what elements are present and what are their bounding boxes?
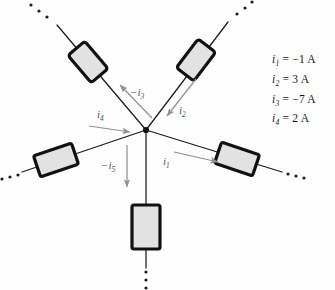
legend-sub-i4: 4 bbox=[275, 119, 279, 128]
figure-canvas: −i3 i2 i4 −i5 i1 i1 = −1 A i2 = 3 A i3 =… bbox=[0, 0, 335, 290]
legend-sub-i1: 1 bbox=[275, 59, 279, 68]
legend-row-i2: i2 = 3 A bbox=[272, 72, 334, 92]
current-label-i3: −i3 bbox=[130, 86, 144, 101]
legend-eq-i1: = bbox=[282, 53, 289, 65]
legend-eq-i2: = bbox=[282, 73, 289, 85]
legend-value-i1: −1 bbox=[292, 53, 305, 65]
legend-eq-i3: = bbox=[282, 93, 289, 105]
current-label-i2-sub: 2 bbox=[182, 110, 186, 119]
current-arrow-i4 bbox=[89, 126, 130, 132]
ellipsis-left bbox=[0, 173, 19, 180]
legend-sub-i2: 2 bbox=[275, 79, 279, 88]
resistor-branch-1 bbox=[215, 142, 260, 176]
legend-unit-i2: A bbox=[301, 73, 310, 85]
legend-row-i3: i3 = −7 A bbox=[272, 92, 334, 112]
current-label-i4: i4 bbox=[97, 108, 104, 123]
legend-unit-i4: A bbox=[301, 112, 310, 124]
current-label-i2: i2 bbox=[179, 104, 186, 119]
legend-row-i1: i1 = −1 A bbox=[272, 52, 334, 72]
current-values-legend: i1 = −1 A i2 = 3 A i3 = −7 A i4 = 2 A bbox=[272, 52, 334, 131]
legend-unit-i3: A bbox=[307, 93, 316, 105]
resistor-branch-4 bbox=[34, 143, 79, 177]
legend-value-i2: 3 bbox=[292, 73, 298, 85]
circuit-diagram bbox=[0, 0, 335, 290]
resistor-branch-3 bbox=[68, 41, 108, 83]
legend-value-i3: −7 bbox=[292, 93, 305, 105]
current-label-i5-sub: 5 bbox=[111, 165, 115, 174]
legend-eq-i4: = bbox=[282, 112, 289, 124]
ellipsis-bottom bbox=[144, 270, 147, 289]
ellipsis-right bbox=[286, 172, 305, 179]
ellipsis-upper-left bbox=[29, 3, 48, 18]
legend-sub-i3: 3 bbox=[275, 99, 279, 108]
current-label-i1-sub: 1 bbox=[166, 161, 170, 170]
current-label-i5: −i5 bbox=[101, 159, 115, 174]
ellipsis-upper-right bbox=[235, 0, 253, 15]
legend-value-i4: 2 bbox=[292, 112, 298, 124]
resistor-branch-5 bbox=[132, 205, 160, 249]
current-label-i3-prefix: −i bbox=[130, 86, 140, 98]
current-label-i1: i1 bbox=[163, 155, 170, 170]
current-label-i4-sub: 4 bbox=[100, 114, 104, 123]
junction-node bbox=[143, 127, 149, 133]
legend-unit-i1: A bbox=[307, 53, 316, 65]
current-arrow-i1 bbox=[174, 152, 218, 162]
current-label-i3-sub: 3 bbox=[140, 92, 144, 101]
current-label-i5-prefix: −i bbox=[101, 159, 111, 171]
legend-row-i4: i4 = 2 A bbox=[272, 111, 334, 131]
